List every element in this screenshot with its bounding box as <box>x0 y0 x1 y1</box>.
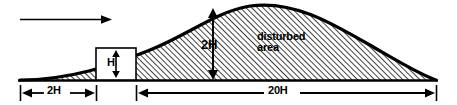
hill-height-label: 2H <box>201 38 217 51</box>
diagram-svg <box>0 0 457 105</box>
upwind-distance-label: 2H <box>47 85 61 96</box>
flow-direction-arrow <box>20 15 112 24</box>
disturbed-area-region <box>20 5 436 80</box>
downwind-distance-label: 20H <box>268 85 288 96</box>
disturbed-area-label-line2: area <box>257 41 279 53</box>
disturbed-area-label: disturbedarea <box>257 31 305 53</box>
building-box <box>96 48 136 80</box>
diagram-canvas: 2H disturbedarea H 2H 20H <box>0 0 457 105</box>
disturbed-area-label-line1: disturbed <box>257 30 305 42</box>
building-height-label: H <box>107 57 115 68</box>
